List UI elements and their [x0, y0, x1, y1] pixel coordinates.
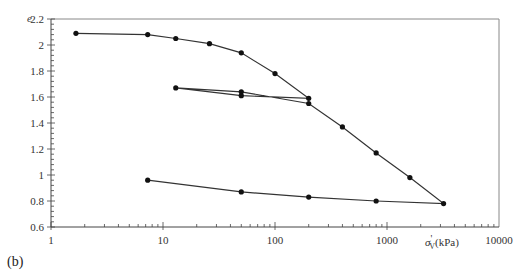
y-tick-label: 1	[39, 169, 45, 181]
data-point	[145, 32, 150, 37]
y-tick-label: 1.2	[30, 143, 44, 155]
y-tick-label: 1.6	[30, 91, 44, 103]
x-tick-label: 10	[158, 234, 170, 246]
y-tick-label: 0.8	[30, 195, 44, 207]
void-ratio-vs-stress-chart: 110100100010000 0.60.811.21.41.61.822.2 …	[0, 0, 529, 274]
y-tick-label: 1.8	[30, 65, 44, 77]
data-series	[73, 31, 446, 207]
x-tick-label: 1000	[376, 234, 399, 246]
data-point	[306, 195, 311, 200]
data-point	[239, 89, 244, 94]
data-point	[407, 175, 412, 180]
plot-frame	[51, 19, 499, 227]
data-point	[441, 201, 446, 206]
data-point	[306, 101, 311, 106]
data-point	[239, 189, 244, 194]
data-point	[207, 41, 212, 46]
data-point	[173, 36, 178, 41]
y-tick-label: 0.6	[30, 221, 44, 233]
y-tick-label: 2	[39, 39, 45, 51]
series-line	[76, 33, 444, 203]
data-point	[173, 85, 178, 90]
data-point	[374, 198, 379, 203]
data-point	[272, 71, 277, 76]
x-axis-title: σ'V(kPa)	[425, 233, 459, 251]
panel-label: (b)	[7, 254, 24, 270]
y-axis-title: e	[27, 12, 32, 24]
x-tick-label: 1	[48, 234, 54, 246]
data-point	[145, 178, 150, 183]
x-tick-label: 10000	[485, 234, 513, 246]
x-tick-label: 100	[267, 234, 284, 246]
data-point	[239, 50, 244, 55]
data-point	[340, 124, 345, 129]
data-point	[374, 150, 379, 155]
data-point	[306, 96, 311, 101]
data-point	[73, 31, 78, 36]
y-tick-label: 1.4	[30, 117, 44, 129]
y-tick-label: 2.2	[30, 13, 44, 25]
